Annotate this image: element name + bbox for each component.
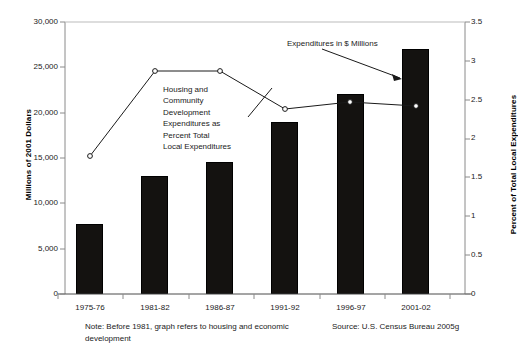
- line-series-annotation-line: Expenditures as: [163, 118, 259, 129]
- category-label-1996-97: 1996-97: [321, 303, 381, 312]
- line-series-annotation-line: Percent Total: [163, 130, 259, 141]
- bar-series-leader: [322, 49, 400, 78]
- category-label-1975-76: 1975-76: [60, 303, 120, 312]
- bar-series-arrowhead: [392, 74, 402, 81]
- chart-note: Note: Before 1981, graph refers to housi…: [85, 321, 305, 344]
- category-label-1986-87: 1986-87: [190, 303, 250, 312]
- category-axis-ticks: [58, 294, 450, 299]
- line-series-annotation-line: Development: [163, 107, 259, 118]
- category-label-2001-02: 2001-02: [386, 303, 446, 312]
- left-axis-ticks: [60, 22, 65, 294]
- right-axis-ticks: [465, 22, 470, 294]
- chart-figure: Millions of 2001 Dollars Percent of Tota…: [0, 0, 518, 360]
- category-label-1991-92: 1991-92: [255, 303, 315, 312]
- line-series-annotation: Housing and Community Development Expend…: [163, 84, 259, 152]
- line-series-annotation-line: Community: [163, 95, 259, 106]
- line-series-annotation-line: Local Expenditures: [163, 141, 259, 152]
- line-series-annotation-line: Housing and: [163, 84, 259, 95]
- chart-source: Source: U.S. Census Bureau 2005g: [332, 321, 459, 333]
- category-label-1981-82: 1981-82: [125, 303, 185, 312]
- bar-series-annotation: Expenditures in $ Millions: [287, 38, 378, 49]
